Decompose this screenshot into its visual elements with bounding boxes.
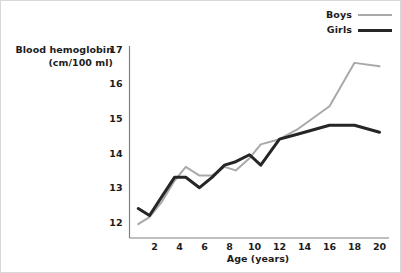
x-tick-label: 2 — [151, 241, 158, 252]
x-tick-label: 20 — [373, 241, 387, 252]
series-line-girls — [138, 125, 379, 215]
x-axis-label: Age (years) — [129, 253, 387, 264]
y-tick-label: 15 — [109, 113, 122, 124]
y-tick-labels: 121314151617 — [109, 44, 123, 228]
x-tick-label: 6 — [201, 241, 208, 252]
series-line-boys — [138, 63, 379, 224]
y-tick-label: 17 — [109, 44, 122, 55]
x-tick-label: 10 — [248, 241, 262, 252]
plot-area: 121314151617 2468101214161820 — [1, 1, 401, 273]
y-tick-label: 13 — [109, 182, 122, 193]
y-tick-label: 14 — [109, 148, 123, 159]
y-tick-label: 16 — [109, 78, 123, 89]
x-tick-label: 4 — [176, 241, 183, 252]
x-tick-labels: 2468101214161820 — [151, 241, 386, 252]
x-tick-label: 8 — [226, 241, 233, 252]
chart-figure: Boys Girls Blood hemoglobin (cm/100 ml) … — [0, 0, 401, 273]
x-tick-label: 18 — [348, 241, 362, 252]
y-tick-label: 12 — [109, 217, 122, 228]
data-series — [138, 63, 379, 224]
x-tick-label: 16 — [323, 241, 337, 252]
x-tick-label: 14 — [298, 241, 312, 252]
x-tick-label: 12 — [273, 241, 286, 252]
axis-lines — [130, 46, 390, 238]
